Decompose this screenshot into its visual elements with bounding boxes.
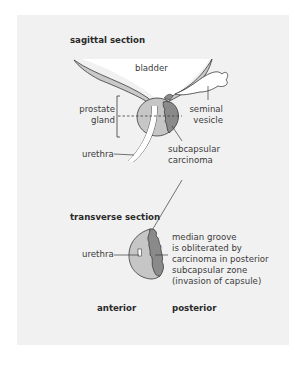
prostate-diagram [0,0,305,371]
label-urethra-transverse: urethra [82,249,114,260]
label-urethra-sagittal: urethra [82,149,114,160]
leader-subcapsular [172,126,182,141]
label-posterior: posterior [172,303,216,314]
label-seminal-vesicle: seminal vesicle [185,104,223,126]
transverse-title: transverse section [70,212,160,223]
label-median-groove-note: median groove is obliterated by carcinom… [172,232,269,287]
label-anterior: anterior [97,303,136,314]
leader-urethra-sagittal [114,154,134,155]
label-prostate-gland: prostate gland [77,104,115,126]
prostate-bracket [117,96,120,137]
sagittal-title: sagittal section [70,35,145,46]
leader-connector [151,180,182,232]
label-bladder: bladder [135,63,168,74]
label-subcapsular-carcinoma: subcapsular carcinoma [168,144,220,166]
